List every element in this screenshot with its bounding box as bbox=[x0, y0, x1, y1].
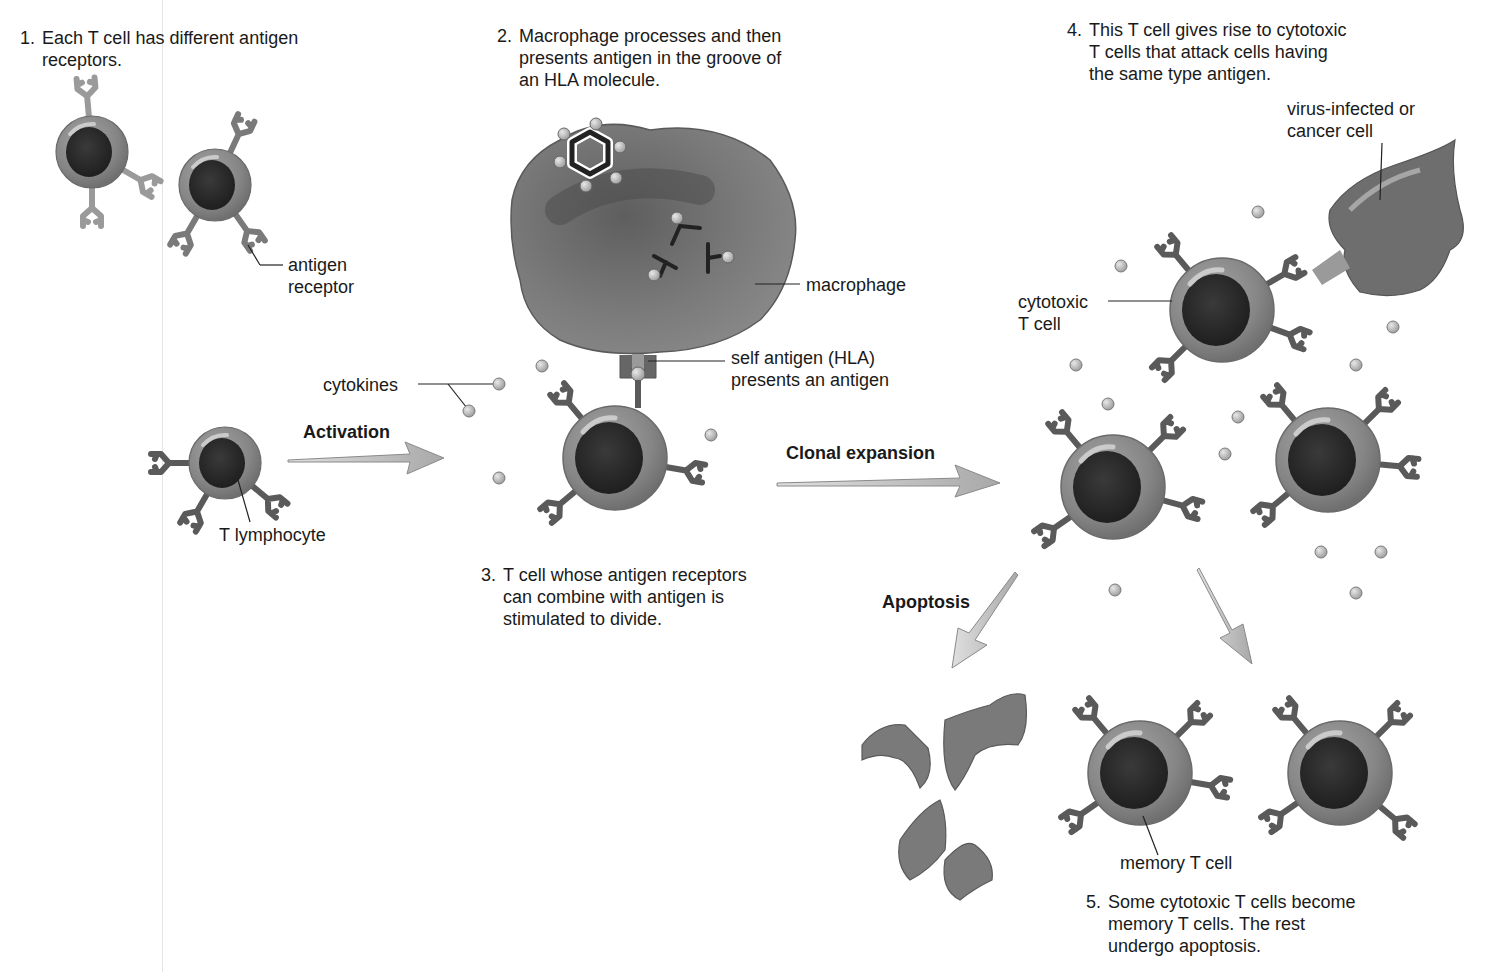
label-clonal-expansion: Clonal expansion bbox=[786, 442, 935, 464]
step-5-caption: 5. Some cytotoxic T cells become memory … bbox=[1086, 891, 1355, 957]
t-cell-step1-a bbox=[56, 77, 161, 226]
step-text: Some cytotoxic T cells become memory T c… bbox=[1086, 891, 1355, 957]
label-antigen-receptor: antigen receptor bbox=[288, 254, 354, 298]
step-text: Each T cell has different antigen recept… bbox=[20, 27, 298, 71]
memory-t-cell-left bbox=[1061, 698, 1230, 832]
step-number: 4. bbox=[1067, 19, 1082, 41]
hla-molecule bbox=[620, 354, 656, 408]
step-4-caption: 4. This T cell gives rise to cytotoxic T… bbox=[1067, 19, 1346, 85]
stimulated-t-cell bbox=[540, 383, 705, 522]
step-number: 5. bbox=[1086, 891, 1101, 913]
step-number: 1. bbox=[20, 27, 35, 49]
label-cytokines: cytokines bbox=[323, 374, 398, 396]
step-1-caption: 1. Each T cell has different antigen rec… bbox=[20, 27, 298, 71]
step-text: Macrophage processes and then presents a… bbox=[497, 25, 781, 91]
label-virus-infected: virus-infected or cancer cell bbox=[1287, 98, 1415, 142]
step-text: T cell whose antigen receptors can combi… bbox=[481, 564, 747, 630]
step-number: 3. bbox=[481, 564, 496, 586]
cytotoxic-t-cell-mid-right bbox=[1253, 385, 1418, 524]
diagram-graphics bbox=[0, 0, 1489, 972]
label-t-lymphocyte: T lymphocyte bbox=[219, 524, 326, 546]
cytotoxic-t-cell-mid-left bbox=[1034, 412, 1202, 546]
label-apoptosis: Apoptosis bbox=[882, 591, 970, 613]
macrophage-cell bbox=[511, 118, 796, 354]
apoptotic-fragments bbox=[862, 694, 1026, 900]
label-activation: Activation bbox=[303, 421, 390, 443]
t-cell-step1-b bbox=[170, 114, 265, 253]
step-2-caption: 2. Macrophage processes and then present… bbox=[497, 25, 781, 91]
t-lymphocyte bbox=[151, 427, 287, 532]
cytotoxic-t-cell-top bbox=[1152, 235, 1310, 380]
step-text: This T cell gives rise to cytotoxic T ce… bbox=[1067, 19, 1346, 85]
step-3-caption: 3. T cell whose antigen receptors can co… bbox=[481, 564, 747, 630]
memory-t-cell-right bbox=[1261, 698, 1415, 837]
step-number: 2. bbox=[497, 25, 512, 47]
label-memory-t-cell: memory T cell bbox=[1120, 852, 1232, 874]
label-self-antigen: self antigen (HLA) presents an antigen bbox=[731, 347, 889, 391]
label-cytotoxic-t-cell: cytotoxic T cell bbox=[1018, 291, 1088, 335]
label-macrophage: macrophage bbox=[806, 274, 906, 296]
virus-infected-cell bbox=[1312, 140, 1463, 296]
